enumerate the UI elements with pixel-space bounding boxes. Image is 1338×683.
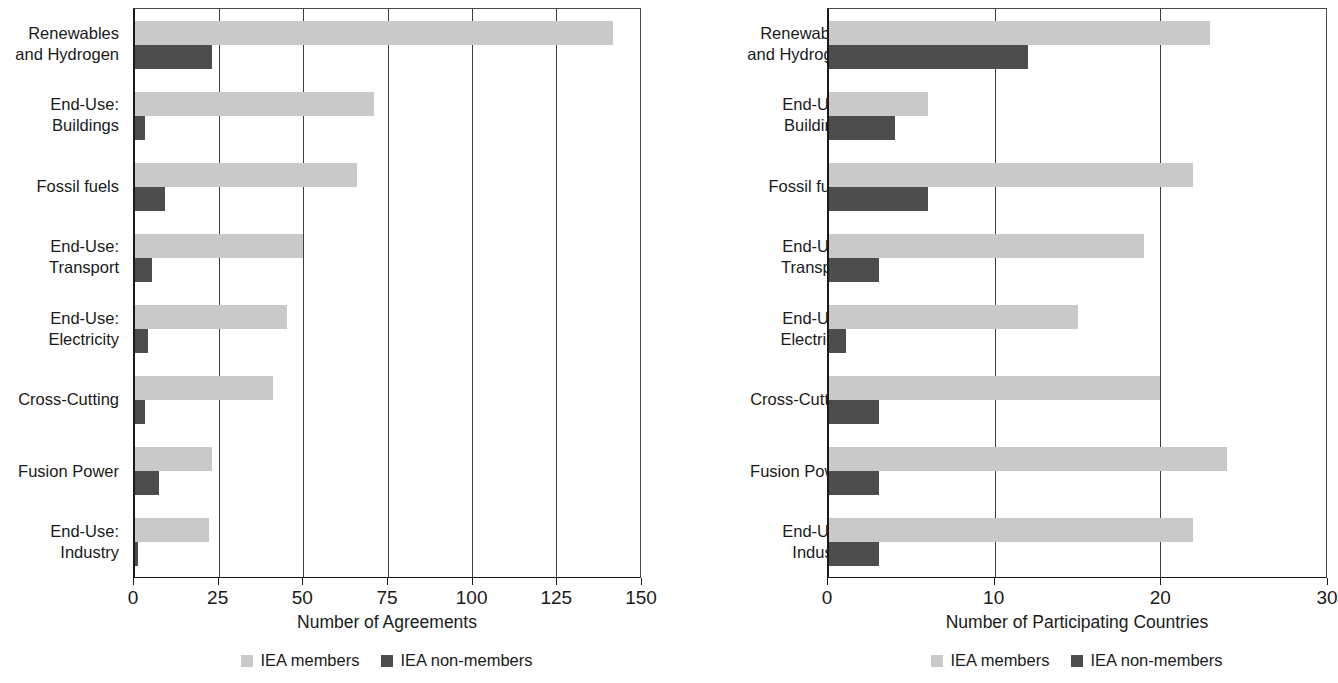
x-axis-tick <box>218 578 219 585</box>
bar-iea-members <box>135 518 209 542</box>
legend-label: IEA members <box>260 651 359 670</box>
category-label-line: End-Use: <box>50 94 119 115</box>
bar-iea-members <box>829 163 1193 187</box>
category-label-line: End-Use: <box>50 308 119 329</box>
bar-group <box>135 9 640 80</box>
bar-iea-members <box>135 234 303 258</box>
x-axis-tick <box>472 578 473 585</box>
legend-item: IEA non-members <box>381 651 532 670</box>
legend-label: IEA non-members <box>1090 651 1222 670</box>
bar-iea-members <box>135 376 273 400</box>
bar-iea-non-members <box>135 116 145 140</box>
bar-iea-members <box>829 447 1227 471</box>
x-axis-tick-label: 150 <box>625 587 657 609</box>
category-label-line: Electricity <box>48 329 119 350</box>
legend-label: IEA members <box>950 651 1049 670</box>
bar-iea-non-members <box>829 187 928 211</box>
bar-iea-non-members <box>829 542 879 566</box>
category-label: End-Use:Industry <box>0 507 128 578</box>
x-axis-tick-label: 100 <box>456 587 488 609</box>
bar-group <box>135 364 640 435</box>
bar-iea-members <box>829 518 1193 542</box>
bar-group <box>829 293 1326 364</box>
bar-iea-non-members <box>829 116 895 140</box>
left-chart-panel: Renewablesand HydrogenEnd-Use:BuildingsF… <box>0 0 665 683</box>
x-axis-tick-label: 50 <box>292 587 313 609</box>
left-plot-area <box>133 8 641 578</box>
bar-iea-members <box>135 21 613 45</box>
legend-item: IEA members <box>931 651 1049 670</box>
category-label: Fossil fuels <box>0 151 128 222</box>
category-label: Cross-Cutting <box>0 364 128 435</box>
legend-swatch-non-members-icon <box>381 655 393 667</box>
x-axis-tick <box>556 578 557 585</box>
category-label-line: Transport <box>49 257 119 278</box>
right-plot-area <box>827 8 1327 578</box>
category-label-line: Cross-Cutting <box>18 389 119 410</box>
legend-item: IEA non-members <box>1071 651 1222 670</box>
bar-group <box>829 435 1326 506</box>
bar-iea-members <box>135 305 287 329</box>
bar-iea-non-members <box>829 329 846 353</box>
category-label-line: Renewables <box>28 23 119 44</box>
category-label-line: End-Use: <box>50 236 119 257</box>
x-axis-tick <box>302 578 303 585</box>
x-axis-tick-label: 30 <box>1316 587 1337 609</box>
legend-item: IEA members <box>241 651 359 670</box>
category-label-line: Buildings <box>52 115 119 136</box>
bar-iea-non-members <box>135 45 212 69</box>
left-legend: IEA membersIEA non-members <box>133 651 641 670</box>
bar-iea-non-members <box>135 400 145 424</box>
bar-iea-members <box>829 234 1144 258</box>
bar-group <box>829 222 1326 293</box>
x-axis-tick-label: 75 <box>376 587 397 609</box>
x-axis-tick-label: 0 <box>128 587 139 609</box>
bar-iea-non-members <box>829 258 879 282</box>
bar-iea-non-members <box>829 45 1028 69</box>
bar-iea-members <box>829 21 1210 45</box>
category-label-line: End-Use: <box>50 521 119 542</box>
bar-group <box>135 293 640 364</box>
category-label: End-Use:Transport <box>0 222 128 293</box>
bar-group <box>135 506 640 577</box>
bar-iea-members <box>135 163 357 187</box>
x-axis-tick-label: 25 <box>207 587 228 609</box>
bar-iea-members <box>829 305 1078 329</box>
bar-group <box>135 435 640 506</box>
bar-group <box>829 506 1326 577</box>
x-axis-tick-label: 20 <box>1150 587 1171 609</box>
legend-swatch-members-icon <box>241 655 253 667</box>
category-label-line: Fusion Power <box>18 461 119 482</box>
left-bar-series <box>135 9 640 577</box>
bar-iea-non-members <box>135 471 159 495</box>
legend-swatch-members-icon <box>931 655 943 667</box>
legend-label: IEA non-members <box>400 651 532 670</box>
category-label: End-Use:Electricity <box>0 293 128 364</box>
x-axis-tick <box>641 578 642 585</box>
left-x-axis-title: Number of Agreements <box>133 612 641 633</box>
bar-group <box>135 151 640 222</box>
x-axis-tick <box>994 578 995 585</box>
bar-group <box>829 151 1326 222</box>
bar-iea-non-members <box>135 542 138 566</box>
bar-group <box>829 80 1326 151</box>
x-axis-tick <box>1327 578 1328 585</box>
category-label: Fusion Power <box>0 436 128 507</box>
bar-iea-non-members <box>829 471 879 495</box>
bar-iea-non-members <box>135 329 148 353</box>
right-x-axis-title: Number of Participating Countries <box>827 612 1327 633</box>
x-axis-tick <box>1160 578 1161 585</box>
bar-iea-members <box>829 92 928 116</box>
x-axis-tick <box>387 578 388 585</box>
category-label-line: Industry <box>60 542 119 563</box>
right-chart-panel: Renewablesand HydrogenEnd-Use:BuildingsF… <box>665 0 1329 683</box>
bar-group <box>829 364 1326 435</box>
x-axis-tick-label: 10 <box>983 587 1004 609</box>
category-label-line: Fossil fuels <box>36 176 119 197</box>
category-label: Renewablesand Hydrogen <box>0 8 128 79</box>
x-axis-tick-label: 125 <box>540 587 572 609</box>
legend-swatch-non-members-icon <box>1071 655 1083 667</box>
bar-iea-non-members <box>135 258 152 282</box>
bar-iea-non-members <box>135 187 165 211</box>
